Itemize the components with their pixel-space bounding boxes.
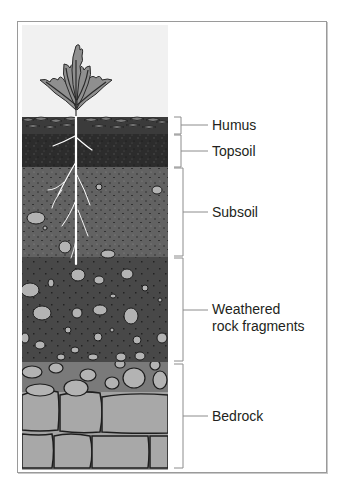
subsoil-bracket [174,168,183,256]
weathered-rock-bracket [174,258,183,361]
label-weathered-line1: Weathered [212,301,280,318]
label-subsoil: Subsoil [212,204,258,221]
label-weathered-line2: rock fragments [212,318,305,335]
label-topsoil: Topsoil [212,143,256,160]
label-humus: Humus [212,117,256,134]
label-bedrock: Bedrock [212,408,263,425]
bedrock-bracket [174,364,183,468]
humus-bracket [174,117,181,134]
topsoil-bracket [174,135,181,167]
labels-layer: Humus Topsoil Subsoil Weathered rock fra… [0,0,342,483]
